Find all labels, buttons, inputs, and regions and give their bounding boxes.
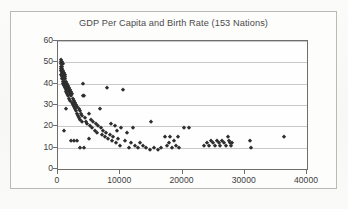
data-point — [175, 135, 180, 140]
data-point — [282, 135, 287, 140]
data-point — [75, 139, 80, 144]
x-axis: 010000200003000040000 — [57, 170, 308, 192]
x-tick-label: 30000 — [232, 175, 256, 185]
data-point — [149, 120, 154, 125]
data-point — [119, 126, 124, 131]
x-tick-mark — [306, 170, 307, 174]
data-point — [177, 145, 182, 150]
data-point — [135, 145, 140, 150]
y-axis-labels: 0102030405060 — [28, 40, 53, 170]
data-point — [97, 107, 102, 112]
x-tick-label: 20000 — [170, 175, 194, 185]
gridline — [58, 41, 307, 42]
y-tick-label: 40 — [31, 78, 53, 88]
y-tick-label: 20 — [31, 120, 53, 130]
data-point — [64, 107, 69, 112]
x-tick-label: 0 — [55, 175, 60, 185]
x-tick-label: 40000 — [294, 175, 318, 185]
data-point — [62, 128, 67, 133]
data-point — [247, 139, 252, 144]
y-tick-label: 60 — [31, 35, 53, 45]
data-point — [127, 145, 132, 150]
data-point — [87, 137, 92, 142]
data-point — [181, 126, 186, 131]
data-point — [168, 135, 173, 140]
y-tick-label: 30 — [31, 99, 53, 109]
gridline — [58, 105, 307, 106]
scanned-figure-page: GDP Per Capita and Birth Rate (153 Natio… — [0, 0, 348, 209]
x-tick-mark — [119, 170, 120, 174]
data-point — [121, 88, 126, 93]
data-point — [116, 137, 121, 142]
gridline — [58, 84, 307, 85]
gridline — [58, 148, 307, 149]
data-point — [86, 111, 91, 116]
chart-title: GDP Per Capita and Birth Rate (153 Natio… — [10, 18, 337, 28]
data-point — [159, 145, 164, 150]
data-point — [130, 126, 135, 131]
data-point — [82, 145, 87, 150]
x-tick-label: 10000 — [107, 175, 131, 185]
y-tick-label: 10 — [31, 142, 53, 152]
data-point — [123, 139, 128, 144]
data-point — [125, 130, 130, 135]
x-tick-mark — [57, 170, 58, 174]
data-point — [186, 126, 191, 131]
data-point — [80, 81, 85, 86]
plot-area — [57, 40, 308, 170]
data-point — [249, 145, 254, 150]
y-tick-label: 50 — [31, 56, 53, 66]
gridline — [58, 62, 307, 63]
x-tick-mark — [244, 170, 245, 174]
x-tick-mark — [182, 170, 183, 174]
data-point — [105, 86, 110, 91]
y-tick-label: 0 — [31, 163, 53, 173]
